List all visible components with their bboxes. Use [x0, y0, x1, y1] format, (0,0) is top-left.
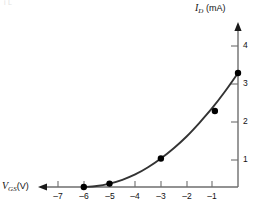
- y-tick-label: 4: [243, 40, 248, 50]
- x-tick-label: –5: [102, 191, 118, 201]
- y-tick-marks: [231, 46, 238, 160]
- y-tick-label: 3: [243, 78, 248, 88]
- data-point: [158, 155, 164, 161]
- y-axis-label: ID (mA): [195, 2, 225, 15]
- y-axis-arrowhead: [234, 22, 241, 31]
- y-axis-label-subscript: D: [198, 7, 203, 15]
- data-point: [212, 108, 218, 114]
- data-point: [81, 184, 87, 190]
- x-tick-label: –1: [204, 191, 220, 201]
- axis-group: [38, 22, 242, 191]
- data-point-markers: [81, 70, 242, 190]
- data-point: [235, 70, 241, 76]
- plot-canvas: [0, 0, 259, 209]
- y-axis-label-unit: (mA): [206, 3, 226, 13]
- id-vgs-curve: [84, 73, 238, 187]
- y-tick-label: 2: [243, 116, 248, 126]
- x-tick-label: –3: [153, 191, 169, 201]
- transfer-characteristic-figure: i L ID (mA) VGS(V) –7 –: [0, 0, 259, 209]
- x-tick-label: –2: [179, 191, 195, 201]
- x-axis-arrowhead: [38, 183, 47, 190]
- x-tick-label: –6: [76, 191, 92, 201]
- x-axis-label-subscript: GS: [8, 185, 17, 193]
- x-tick-label: –4: [127, 191, 143, 201]
- x-tick-label: –7: [50, 191, 66, 201]
- data-point: [106, 180, 112, 186]
- x-axis-label: VGS(V): [2, 180, 29, 193]
- y-tick-label: 1: [243, 154, 248, 164]
- x-axis-label-unit: (V): [17, 181, 29, 191]
